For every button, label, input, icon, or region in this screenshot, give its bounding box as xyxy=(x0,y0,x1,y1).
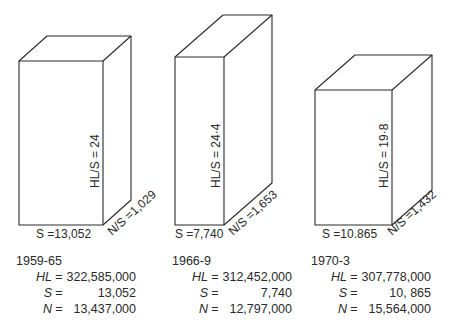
stat-hl: HL=307,778,000 xyxy=(311,269,431,285)
box1-n-s-label: N/S =1,029 xyxy=(105,187,159,238)
box-1959-65 xyxy=(19,36,131,225)
stat-n: N=15,564,000 xyxy=(311,301,431,317)
stat-n: N=13,437,000 xyxy=(16,301,136,317)
box3-s-label: S =10.865 xyxy=(322,227,377,241)
period-label: 1966-9 xyxy=(172,253,292,269)
stat-s: S=7,740 xyxy=(172,285,292,301)
period-label: 1959-65 xyxy=(16,253,136,269)
box2-hl-s-label: HL/S = 24·4 xyxy=(209,123,223,188)
box1-s-label: S =13,052 xyxy=(36,227,91,241)
stat-s: S=10, 865 xyxy=(311,285,431,301)
box-1966-9 xyxy=(175,15,272,225)
stat-n: N=12,797,000 xyxy=(172,301,292,317)
box2-n-s-label: N/S =1,653 xyxy=(226,187,280,238)
box1-hl-s-label: HL/S = 24 xyxy=(88,134,102,188)
stats-1959-65: 1959-65 HL=322,585,000 S=13,052 N=13,437… xyxy=(16,253,136,317)
stat-s: S=13,052 xyxy=(16,285,136,301)
stats-1970-3: 1970-3 HL=307,778,000 S=10, 865 N=15,564… xyxy=(311,253,431,317)
box2-s-label: S =7,740 xyxy=(175,227,224,241)
box3-n-s-label: N/S =1,432 xyxy=(385,187,439,238)
box-1970-3 xyxy=(315,55,432,225)
box3-hl-s-label: HL/S = 19·8 xyxy=(377,123,391,188)
period-label: 1970-3 xyxy=(311,253,431,269)
stat-hl: HL=312,452,000 xyxy=(172,269,292,285)
stat-hl: HL=322,585,000 xyxy=(16,269,136,285)
stats-1966-9: 1966-9 HL=312,452,000 S=7,740 N=12,797,0… xyxy=(172,253,292,317)
